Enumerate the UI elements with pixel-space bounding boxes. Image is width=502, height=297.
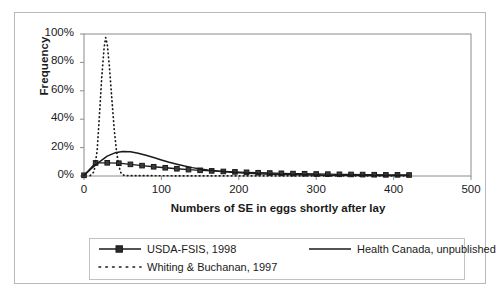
x-tick-label: 200 bbox=[219, 183, 259, 195]
legend-label: USDA-FSIS, 1998 bbox=[147, 244, 236, 255]
y-tick-label: 40% bbox=[32, 111, 74, 123]
legend-item-health-canada[interactable]: Health Canada, unpublished bbox=[308, 243, 496, 255]
legend-swatch-solid-with-square-markers bbox=[98, 243, 142, 255]
y-tick-label: 0% bbox=[32, 168, 74, 180]
y-axis-ticks bbox=[80, 34, 84, 176]
x-axis-ticks bbox=[84, 176, 471, 180]
x-tick-label: 400 bbox=[374, 183, 414, 195]
y-tick-label: 100% bbox=[32, 26, 74, 38]
figure-container: Frequency Numbers of SE in eggs shortly … bbox=[0, 0, 502, 297]
data-point-marker bbox=[163, 165, 168, 170]
data-point-marker bbox=[128, 162, 133, 167]
legend-swatch-dotted bbox=[98, 261, 142, 273]
x-tick-label: 0 bbox=[64, 183, 104, 195]
x-tick-label: 500 bbox=[451, 183, 491, 195]
x-axis-title: Numbers of SE in eggs shortly after lay bbox=[84, 202, 472, 214]
y-tick-label: 60% bbox=[32, 83, 74, 95]
x-tick-label: 100 bbox=[141, 183, 181, 195]
y-tick-label: 80% bbox=[32, 54, 74, 66]
legend-item-whiting-buchanan[interactable]: Whiting & Buchanan, 1997 bbox=[98, 261, 277, 273]
data-point-marker bbox=[105, 160, 110, 165]
legend-swatch-solid bbox=[308, 243, 352, 255]
data-point-marker bbox=[175, 166, 180, 171]
y-tick-label: 20% bbox=[32, 140, 74, 152]
legend-label: Whiting & Buchanan, 1997 bbox=[147, 262, 277, 273]
legend-label: Health Canada, unpublished bbox=[357, 244, 496, 255]
data-point-marker bbox=[140, 163, 145, 168]
data-point-marker bbox=[186, 167, 191, 172]
legend-item-usda-fsis[interactable]: USDA-FSIS, 1998 bbox=[98, 243, 236, 255]
chart-legend: USDA-FSIS, 1998 Health Canada, unpublish… bbox=[89, 238, 465, 280]
data-point-marker bbox=[151, 164, 156, 169]
x-tick-label: 300 bbox=[296, 183, 336, 195]
